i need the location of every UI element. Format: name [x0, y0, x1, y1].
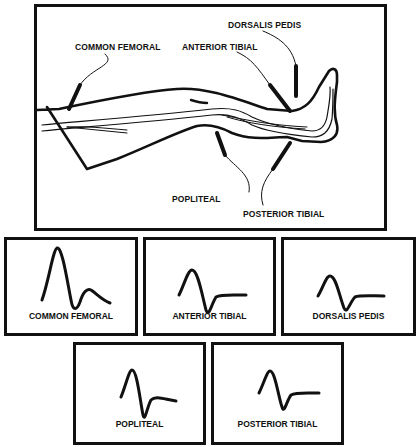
label-common-femoral: COMMON FEMORAL — [75, 42, 160, 52]
label-dorsalis-pedis: DORSALIS PEDIS — [228, 20, 301, 30]
waveform-panel-common-femoral: COMMON FEMORAL — [4, 237, 138, 336]
waveform-panel-dorsalis-pedis: DORSALIS PEDIS — [281, 237, 416, 336]
waveform-label: COMMON FEMORAL — [7, 311, 135, 321]
waveform-label: ANTERIOR TIBIAL — [146, 311, 273, 321]
waveform-label: POPLITEAL — [76, 419, 203, 429]
label-anterior-tibial: ANTERIOR TIBIAL — [182, 42, 258, 52]
leg-diagram-panel: COMMON FEMORAL ANTERIOR TIBIAL DORSALIS … — [34, 4, 387, 231]
waveform-panel-anterior-tibial: ANTERIOR TIBIAL — [143, 237, 276, 336]
label-popliteal: POPLITEAL — [172, 194, 221, 204]
waveform-panel-posterior-tibial: POSTERIOR TIBIAL — [211, 342, 344, 445]
waveform-panel-popliteal: POPLITEAL — [73, 342, 206, 445]
waveform-label: POSTERIOR TIBIAL — [214, 419, 341, 429]
waveform-label: DORSALIS PEDIS — [284, 311, 413, 321]
label-posterior-tibial: POSTERIOR TIBIAL — [243, 209, 324, 219]
